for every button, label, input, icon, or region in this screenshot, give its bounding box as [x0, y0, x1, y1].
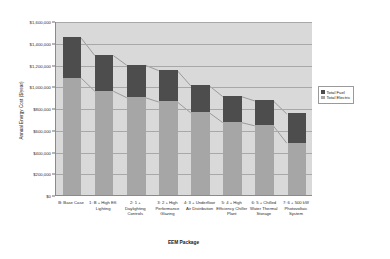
bar-segment-total-electric[interactable] — [288, 143, 307, 195]
bar-segment-total-electric[interactable] — [255, 125, 274, 195]
y-tick-label: $0 — [46, 194, 51, 199]
bar-segment-total-electric[interactable] — [191, 112, 210, 195]
legend-label: Total Electric — [327, 95, 351, 100]
y-axis-title: Annual Energy Cost ($/year) — [19, 51, 24, 171]
bar-segment-total-fuel[interactable] — [159, 70, 178, 102]
connector-line-electric — [273, 126, 286, 143]
y-tick-label: $1,000,000 — [30, 85, 51, 90]
connector-line-total — [81, 38, 94, 55]
connector-line-electric — [81, 78, 94, 91]
bar-group[interactable] — [63, 21, 82, 195]
connector-line-electric — [145, 98, 158, 102]
x-tick-label: 3: 2 + High Performance Glazing — [151, 200, 183, 217]
connector-line-electric — [209, 113, 222, 123]
y-tick-label: $200,000 — [33, 172, 51, 177]
connector-line-electric — [113, 91, 126, 97]
x-tick-label: 4: 3 + Underfloor Air Distribution — [184, 200, 216, 211]
connector-line-total — [241, 97, 254, 101]
connector-line-total — [273, 101, 286, 114]
x-tick-label: B: Base Case — [55, 200, 87, 206]
legend-item-total-electric: Total Electric — [321, 95, 350, 100]
y-tick-label: $600,000 — [33, 128, 51, 133]
connector-line-electric — [177, 102, 190, 113]
bar-segment-total-fuel[interactable] — [191, 85, 210, 112]
y-tick-label: $1,200,000 — [30, 63, 51, 68]
bar-segment-total-electric[interactable] — [63, 78, 82, 195]
plot-area — [55, 22, 312, 196]
y-axis: Annual Energy Cost ($/year) $1,600,000$1… — [0, 0, 55, 200]
y-tick-label: $800,000 — [33, 107, 51, 112]
legend-swatch-icon — [321, 96, 325, 100]
bar-group[interactable] — [255, 21, 274, 195]
bar-segment-total-electric[interactable] — [95, 91, 114, 195]
plot-inner — [56, 22, 312, 195]
chart-container: Annual Energy Cost ($/year) $1,600,000$1… — [0, 0, 390, 259]
bar-segment-total-fuel[interactable] — [127, 65, 146, 98]
x-tick-label: 5: 4 + High Efficiency Chiller Plant — [216, 200, 248, 217]
connector-line-electric — [241, 123, 254, 126]
legend-swatch-icon — [321, 90, 325, 94]
legend-label: Total Fuel — [327, 90, 345, 95]
x-tick-label: 6: 5 + Chilled Water Thermal Storage — [248, 200, 280, 217]
bar-group[interactable] — [223, 21, 242, 195]
y-tick-label: $1,400,000 — [30, 41, 51, 46]
bar-segment-total-fuel[interactable] — [95, 55, 114, 91]
bar-segment-total-fuel[interactable] — [223, 96, 242, 122]
y-tick-label: $400,000 — [33, 150, 51, 155]
x-tick-label: 2: 1 + Daylighting Controls — [119, 200, 151, 217]
y-tick-label: $1,600,000 — [30, 20, 51, 25]
bar-group[interactable] — [191, 21, 210, 195]
bar-segment-total-electric[interactable] — [159, 101, 178, 195]
bar-segment-total-electric[interactable] — [223, 122, 242, 195]
x-axis-title: EEM Package — [55, 240, 312, 245]
connector-line-total — [177, 71, 190, 86]
bar-group[interactable] — [95, 21, 114, 195]
bar-segment-total-fuel[interactable] — [63, 37, 82, 77]
x-tick-label: 1: B + High Eff. Lighting — [87, 200, 119, 211]
x-tick-label: 7: 6 + 500 kW Photovoltaic System — [280, 200, 312, 217]
connector-line-total — [113, 56, 126, 66]
bar-segment-total-fuel[interactable] — [255, 100, 274, 125]
chart-legend: Total Fuel Total Electric — [318, 86, 354, 104]
x-axis: B: Base Case1: B + High Eff. Lighting2: … — [55, 200, 312, 240]
bar-group[interactable] — [288, 21, 307, 195]
bar-segment-total-electric[interactable] — [127, 97, 146, 195]
bar-group[interactable] — [159, 21, 178, 195]
bar-segment-total-fuel[interactable] — [288, 113, 307, 142]
legend-item-total-fuel: Total Fuel — [321, 90, 350, 95]
bar-group[interactable] — [127, 21, 146, 195]
